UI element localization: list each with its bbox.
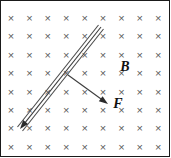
field-cross-icon: ×: [8, 12, 14, 24]
field-cross-icon: ×: [81, 141, 87, 153]
field-cross-icon: ×: [100, 49, 106, 61]
field-cross-icon: ×: [63, 12, 69, 24]
field-cross-icon: ×: [137, 67, 143, 79]
field-cross-icon: ×: [155, 122, 161, 134]
field-cross-icon: ×: [63, 86, 69, 98]
field-cross-icon: ×: [118, 122, 124, 134]
field-cross-icon: ×: [45, 141, 51, 153]
field-cross-icon: ×: [137, 86, 143, 98]
field-cross-icon: ×: [100, 104, 106, 116]
field-cross-icon: ×: [155, 141, 161, 153]
field-cross-icon: ×: [26, 30, 32, 42]
field-cross-icon: ×: [155, 86, 161, 98]
field-cross-icon: ×: [8, 141, 14, 153]
field-cross-icon: ×: [8, 104, 14, 116]
field-cross-icon: ×: [26, 86, 32, 98]
field-cross-icon: ×: [81, 122, 87, 134]
field-cross-icon: ×: [100, 86, 106, 98]
field-cross-icon: ×: [118, 30, 124, 42]
magnetic-field-cross-grid: ××××××××××××××××××××××××××××××××××××××××…: [8, 12, 162, 153]
field-cross-icon: ×: [137, 104, 143, 116]
force-label: F: [112, 96, 123, 111]
field-cross-icon: ×: [63, 141, 69, 153]
field-cross-icon: ×: [8, 122, 14, 134]
field-cross-icon: ×: [8, 86, 14, 98]
field-cross-icon: ×: [26, 141, 32, 153]
field-cross-icon: ×: [8, 30, 14, 42]
figure-canvas: ××××××××××××××××××××××××××××××××××××××××…: [0, 0, 171, 158]
field-cross-icon: ×: [137, 141, 143, 153]
field-cross-icon: ×: [81, 12, 87, 24]
field-cross-icon: ×: [8, 49, 14, 61]
field-cross-icon: ×: [118, 141, 124, 153]
field-cross-icon: ×: [118, 12, 124, 24]
field-cross-icon: ×: [155, 30, 161, 42]
field-cross-icon: ×: [45, 30, 51, 42]
field-cross-icon: ×: [100, 67, 106, 79]
field-cross-icon: ×: [155, 12, 161, 24]
field-cross-icon: ×: [63, 122, 69, 134]
field-cross-icon: ×: [81, 67, 87, 79]
field-cross-icon: ×: [63, 30, 69, 42]
field-cross-icon: ×: [26, 12, 32, 24]
field-cross-icon: ×: [45, 104, 51, 116]
magnetic-field-label: B: [119, 59, 129, 74]
field-cross-icon: ×: [45, 49, 51, 61]
field-cross-icon: ×: [100, 122, 106, 134]
field-cross-icon: ×: [45, 122, 51, 134]
field-cross-icon: ×: [137, 49, 143, 61]
field-cross-icon: ×: [137, 122, 143, 134]
field-cross-icon: ×: [8, 67, 14, 79]
field-cross-icon: ×: [155, 104, 161, 116]
field-cross-icon: ×: [100, 141, 106, 153]
field-cross-icon: ×: [45, 12, 51, 24]
field-cross-icon: ×: [81, 104, 87, 116]
field-cross-icon: ×: [100, 12, 106, 24]
magnetic-field-figure: ××××××××××××××××××××××××××××××××××××××××…: [0, 0, 171, 158]
field-cross-icon: ×: [63, 104, 69, 116]
field-cross-icon: ×: [155, 67, 161, 79]
field-cross-icon: ×: [155, 49, 161, 61]
field-cross-icon: ×: [63, 49, 69, 61]
field-cross-icon: ×: [137, 12, 143, 24]
field-cross-icon: ×: [26, 67, 32, 79]
field-cross-icon: ×: [45, 67, 51, 79]
field-cross-icon: ×: [26, 49, 32, 61]
field-cross-icon: ×: [137, 30, 143, 42]
